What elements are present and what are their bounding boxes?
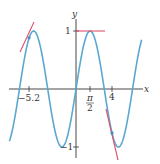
y-axis-label: y [71,9,78,19]
tick-label-two: 2 [87,103,93,113]
tick-label-one: 1 [65,26,71,36]
sine-tangent-chart: y x −5.2 π 2 4 1 −1 [0,0,160,164]
tick-label-pi: π [86,93,94,103]
tick-label-neg-one: −1 [60,142,73,152]
tangent-line-four [106,109,118,160]
tick-label-neg52: −5.2 [18,93,40,103]
point-neg52 [27,36,30,39]
tick-label-four: 4 [109,92,115,102]
point-four [110,131,113,134]
x-axis-label: x [144,84,149,94]
